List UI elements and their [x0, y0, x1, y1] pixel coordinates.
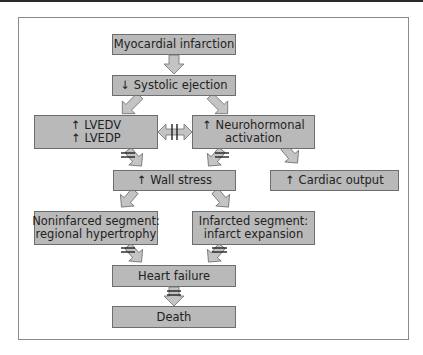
arrow-mi-se — [164, 55, 184, 74]
node-heart-failure: Heart failure — [112, 265, 236, 287]
node-noninfarced-segment: Noninfarced segment: regional hypertroph… — [34, 211, 158, 245]
node-label-line2: infarct expansion — [204, 228, 303, 241]
node-label: Heart failure — [138, 270, 210, 283]
node-wall-stress: ↑ Wall stress — [113, 170, 236, 191]
node-label: ↓ Systolic ejection — [121, 79, 228, 92]
node-neurohormonal-activation: ↑ Neurohormonal activation — [192, 115, 315, 149]
node-infarcted-segment: Infarcted segment: infarct expansion — [192, 211, 315, 245]
node-label: ↑ Wall stress — [137, 174, 212, 187]
node-label-line2: ↑ LVEDP — [71, 132, 120, 145]
node-label-line2: activation — [225, 132, 282, 145]
arrow-hf-de — [164, 287, 184, 306]
arrow-lv-nh-bidirectional — [158, 124, 192, 140]
node-label: Death — [157, 311, 192, 324]
node-label-line2: regional hypertrophy — [36, 228, 157, 241]
node-cardiac-output: ↑ Cardiac output — [270, 170, 399, 191]
node-label: Myocardial infarction — [114, 38, 234, 51]
node-systolic-ejection: ↓ Systolic ejection — [112, 75, 236, 96]
node-label: ↑ Cardiac output — [285, 174, 383, 187]
node-myocardial-infarction: Myocardial infarction — [112, 34, 236, 55]
node-lvedv-lvedp: ↑ LVEDV ↑ LVEDP — [34, 115, 158, 149]
node-death: Death — [112, 306, 236, 328]
